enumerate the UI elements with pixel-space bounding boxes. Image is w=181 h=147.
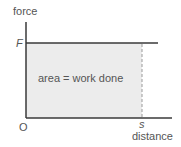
origin-label: O [19, 122, 28, 133]
force-marker: F [16, 38, 23, 49]
y-axis-label: force [13, 6, 37, 17]
area-label: area = work done [38, 73, 123, 84]
distance-marker: s [139, 119, 145, 130]
x-axis-label: distance [132, 131, 173, 142]
